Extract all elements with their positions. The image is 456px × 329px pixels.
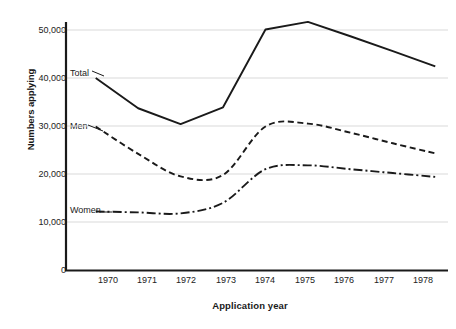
series-line-women xyxy=(96,165,436,214)
label-leader-lines xyxy=(88,71,112,212)
plot-area xyxy=(0,0,456,329)
series-line-total xyxy=(96,22,436,124)
line-chart: Numbers applying 50,000 40,000 30,000 20… xyxy=(0,0,456,329)
data-series xyxy=(96,22,436,214)
gridlines xyxy=(60,30,448,222)
leader-line-total xyxy=(92,71,104,76)
axis-lines xyxy=(65,22,448,271)
